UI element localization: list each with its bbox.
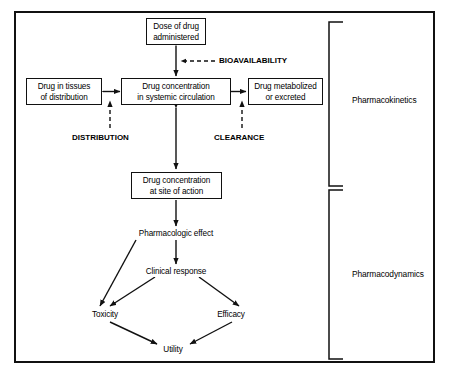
label-bioavailability: BIOAVAILABILITY: [219, 56, 287, 65]
label-clearance: CLEARANCE: [214, 133, 264, 142]
node-pharmacologic-effect: Pharmacologic effect: [137, 228, 215, 239]
node-site-line1: Drug concentration: [143, 176, 210, 185]
node-metabolized-line1: Drug metabolized: [254, 82, 317, 91]
node-site-line2: at site of action: [150, 187, 203, 196]
node-tissues-line2: of distribution: [40, 93, 87, 102]
node-dose-line2: administered: [153, 33, 199, 42]
node-metabolized-line2: or excreted: [266, 93, 306, 102]
node-utility: Utility: [161, 344, 184, 355]
label-pharmacodynamics: Pharmacodynamics: [352, 269, 424, 279]
node-clinical-response: Clinical response: [144, 266, 209, 277]
node-systemic-line1: Drug concentration: [142, 82, 209, 91]
node-efficacy: Efficacy: [215, 309, 247, 320]
label-pharmacokinetics: Pharmacokinetics: [352, 95, 417, 105]
node-systemic-circulation: Drug concentration in systemic circulati…: [121, 78, 231, 105]
node-dose-line1: Dose of drug: [153, 22, 199, 31]
label-distribution: DISTRIBUTION: [72, 133, 129, 142]
node-site-of-action: Drug concentration at site of action: [131, 172, 222, 199]
node-drug-in-tissues: Drug in tissues of distribution: [26, 78, 102, 105]
node-systemic-line2: in systemic circulation: [137, 93, 214, 102]
node-toxicity: Toxicity: [90, 309, 120, 320]
node-drug-metabolized: Drug metabolized or excreted: [248, 78, 323, 105]
node-tissues-line1: Drug in tissues: [38, 82, 91, 91]
node-dose-of-drug: Dose of drug administered: [146, 18, 206, 45]
diagram-canvas: Dose of drug administered Drug in tissue…: [0, 0, 449, 375]
